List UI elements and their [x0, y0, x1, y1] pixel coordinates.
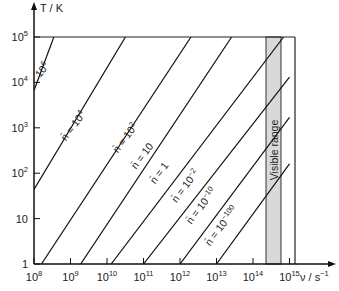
y-axis-label: T / K: [40, 2, 64, 14]
line-labels: 106n̄ = 104n̄ = 102n̄ = 10n̄ = 1n̄ = 10−…: [31, 59, 239, 248]
x-axis-label: ν / s−1: [300, 269, 329, 283]
series-label: n̄ = 104: [57, 108, 88, 143]
y-tick-label: 1: [22, 258, 28, 270]
visible-range-label: Visible range: [268, 120, 280, 181]
y-tick-label: 105: [12, 29, 28, 43]
axes: 1101021031041051081091010101110121013101…: [12, 2, 336, 283]
x-tick-label: 1015: [279, 269, 300, 283]
series-label: n̄ = 10−2: [168, 166, 201, 204]
x-tick-label: 1012: [170, 269, 191, 283]
y-axis-arrow-icon: [31, 2, 37, 10]
x-tick-label: 1013: [206, 269, 227, 283]
plot-area: Visible range: [34, 37, 290, 264]
y-tick-label: 102: [12, 165, 28, 179]
series-label: n̄ = 1: [147, 159, 171, 185]
series-label: n̄ = 102: [109, 120, 140, 155]
y-tick-label: 103: [12, 120, 28, 134]
x-tick-label: 109: [62, 269, 78, 283]
x-tick-label: 1011: [133, 269, 153, 283]
x-tick-label: 108: [26, 269, 42, 283]
x-axis-arrow-icon: [328, 261, 336, 267]
y-tick-label: 10: [16, 213, 28, 225]
x-tick-label: 1010: [97, 269, 118, 283]
planck-occupation-chart: Visible range 11010210310410510810910101…: [0, 0, 339, 291]
y-tick-label: 104: [12, 74, 28, 88]
x-tick-label: 1014: [243, 269, 264, 283]
series-label: n̄ = 10: [128, 140, 155, 171]
